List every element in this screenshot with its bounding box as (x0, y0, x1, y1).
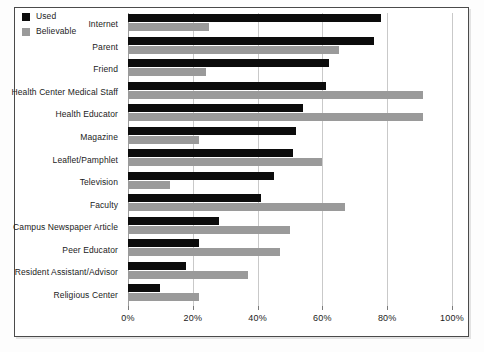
bars-layer (128, 13, 452, 306)
bar-group (128, 171, 452, 194)
bar-group (128, 193, 452, 216)
y-axis-label: Leaflet/Pamphlet (53, 155, 118, 165)
bar-group (128, 58, 452, 81)
bar-believable[interactable] (128, 248, 280, 256)
y-axis-label: Health Center Medical Staff (12, 87, 119, 97)
x-tick-label: 60% (313, 313, 332, 323)
bar-used[interactable] (128, 149, 293, 157)
bar-believable[interactable] (128, 68, 206, 76)
bar-believable[interactable] (128, 113, 423, 121)
x-tick-mark (128, 306, 129, 310)
bar-used[interactable] (128, 194, 261, 202)
plot-area (128, 13, 452, 306)
y-axis-label: Health Educator (56, 109, 118, 119)
bar-used[interactable] (128, 262, 186, 270)
bar-group (128, 126, 452, 149)
x-tick-mark (258, 306, 259, 310)
bar-used[interactable] (128, 14, 381, 22)
bar-believable[interactable] (128, 158, 322, 166)
bar-used[interactable] (128, 284, 160, 292)
y-axis-label: Faculty (90, 200, 118, 210)
bar-believable[interactable] (128, 271, 248, 279)
bar-group (128, 148, 452, 171)
y-axis-label: Magazine (80, 132, 118, 142)
bar-used[interactable] (128, 59, 329, 67)
bar-used[interactable] (128, 217, 219, 225)
bar-used[interactable] (128, 82, 326, 90)
bar-group (128, 238, 452, 261)
x-tick-mark (387, 306, 388, 310)
bar-believable[interactable] (128, 91, 423, 99)
y-axis-label: Religious Center (54, 290, 118, 300)
bar-believable[interactable] (128, 46, 339, 54)
figure-root: Used Believable InternetParentFriendHeal… (0, 0, 484, 352)
x-axis: 0%20%40%60%80%100% (128, 306, 452, 330)
bar-used[interactable] (128, 127, 296, 135)
bar-believable[interactable] (128, 203, 345, 211)
bar-used[interactable] (128, 37, 374, 45)
y-axis-label: Friend (93, 64, 118, 74)
bar-group (128, 216, 452, 239)
x-tick-mark (193, 306, 194, 310)
bar-used[interactable] (128, 104, 303, 112)
bar-believable[interactable] (128, 136, 199, 144)
bar-group (128, 13, 452, 36)
y-axis-label: Campus Newspaper Article (13, 222, 118, 232)
bar-believable[interactable] (128, 23, 209, 31)
y-axis-label: Television (80, 177, 118, 187)
bar-used[interactable] (128, 172, 274, 180)
bar-group (128, 36, 452, 59)
y-axis-label: Peer Educator (62, 245, 118, 255)
x-tick-label: 0% (121, 313, 134, 323)
bar-group (128, 103, 452, 126)
bar-used[interactable] (128, 239, 199, 247)
bar-believable[interactable] (128, 181, 170, 189)
x-tick-mark (322, 306, 323, 310)
x-tick-label: 40% (248, 313, 267, 323)
x-tick-label: 80% (378, 313, 397, 323)
x-tick-label: 100% (440, 313, 464, 323)
bar-believable[interactable] (128, 293, 199, 301)
bar-group (128, 283, 452, 306)
bar-believable[interactable] (128, 226, 290, 234)
y-axis-label: Parent (92, 42, 118, 52)
y-axis-label: Resident Assistant/Advisor (15, 267, 118, 277)
y-axis-category-labels: InternetParentFriendHealth Center Medica… (0, 13, 124, 306)
bar-group (128, 81, 452, 104)
y-axis-label: Internet (88, 19, 118, 29)
x-tick-label: 20% (183, 313, 202, 323)
bar-group (128, 261, 452, 284)
x-tick-mark (452, 306, 453, 310)
